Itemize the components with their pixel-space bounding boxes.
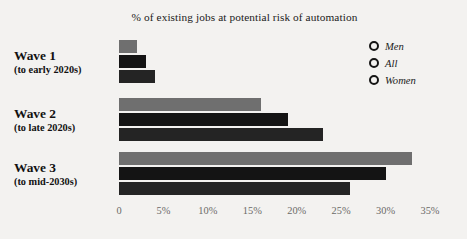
x-axis-tick-label: 25% — [332, 205, 351, 216]
category-label-wave-1: Wave 1 (to early 2020s) — [14, 48, 114, 76]
chart-container: % of existing jobs at potential risk of … — [0, 0, 467, 239]
bar-group-wave-1: Wave 1 (to early 2020s) — [0, 40, 467, 88]
x-axis-tick-label: 35% — [420, 205, 439, 216]
bar-wave1-all — [119, 55, 146, 68]
bar-wave1-women — [119, 70, 155, 83]
bar-wave1-men — [119, 40, 137, 53]
category-name: Wave 1 — [14, 48, 114, 63]
bar-wave3-all — [119, 167, 386, 180]
plot-area: Wave 1 (to early 2020s) Wave 2 (to late … — [0, 0, 467, 239]
x-axis: 05%10%15%20%25%30%35% — [0, 205, 467, 223]
category-label-wave-2: Wave 2 (to late 2020s) — [14, 106, 114, 134]
category-sublabel: (to late 2020s) — [14, 121, 114, 134]
category-name: Wave 2 — [14, 106, 114, 121]
bar-group-wave-3: Wave 3 (to mid-2030s) — [0, 152, 467, 200]
category-label-wave-3: Wave 3 (to mid-2030s) — [14, 160, 114, 188]
x-axis-tick-label: 5% — [156, 205, 170, 216]
category-sublabel: (to early 2020s) — [14, 63, 114, 76]
x-axis-tick-label: 15% — [243, 205, 262, 216]
category-name: Wave 3 — [14, 160, 114, 175]
x-axis-tick-label: 20% — [287, 205, 306, 216]
x-axis-tick-label: 10% — [198, 205, 217, 216]
bar-wave2-women — [119, 128, 323, 141]
bar-wave2-all — [119, 113, 288, 126]
bar-wave2-men — [119, 98, 261, 111]
category-sublabel: (to mid-2030s) — [14, 175, 114, 188]
bar-wave3-men — [119, 152, 412, 165]
bar-group-wave-2: Wave 2 (to late 2020s) — [0, 98, 467, 146]
x-axis-tick-label: 30% — [376, 205, 395, 216]
bar-wave3-women — [119, 182, 350, 195]
x-axis-tick-label: 0 — [116, 205, 121, 216]
